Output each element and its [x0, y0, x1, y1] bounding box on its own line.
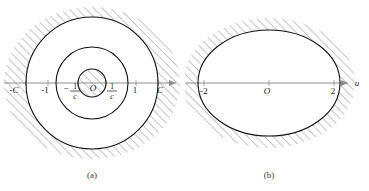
minus-sign-left: − — [63, 83, 68, 93]
label-minus-1: -1 — [41, 85, 49, 95]
panel-a-hatched-region — [0, 0, 185, 160]
figure-container: -C -1 − 1 c O 1 c 1 C (a) −2 O 2 u — [0, 0, 369, 191]
panel-b: −2 O 2 u (b) — [185, 0, 369, 180]
label-1: 1 — [133, 85, 138, 95]
panel-a-origin-label: O — [90, 83, 97, 93]
panel-b-caption: (b) — [264, 170, 275, 180]
numerator-left: 1 — [73, 82, 77, 91]
figure-svg: -C -1 − 1 c O 1 c 1 C (a) −2 O 2 u — [0, 0, 369, 191]
panel-a-caption: (a) — [87, 170, 97, 180]
panel-a: -C -1 − 1 c O 1 c 1 C (a) — [0, 0, 185, 180]
label-minus-2: −2 — [198, 86, 208, 96]
label-2: 2 — [331, 86, 336, 96]
label-C: C — [157, 85, 164, 95]
panel-b-axis-label: u — [355, 78, 360, 88]
panel-b-origin-label: O — [264, 86, 271, 96]
numerator-right: 1 — [110, 82, 114, 91]
label-minus-C: -C — [10, 85, 20, 95]
